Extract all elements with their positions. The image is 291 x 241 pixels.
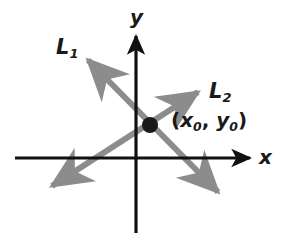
coordinate-x-subscript: 0	[193, 119, 202, 134]
line-L2	[52, 92, 198, 186]
open-paren: (	[171, 108, 180, 132]
y-axis-label: y	[130, 7, 143, 27]
x-axis-label: x	[259, 147, 272, 167]
line-label-L2-subscript: 2	[222, 90, 231, 105]
line-label-L1-letter: L	[56, 35, 69, 59]
figure-canvas	[0, 0, 291, 241]
intersection-coordinate-label: (x0, y0)	[171, 110, 247, 130]
intersection-point	[142, 117, 158, 133]
close-paren: )	[238, 108, 247, 132]
line-label-L2: L2	[209, 81, 231, 102]
coordinate-y: y	[216, 108, 229, 132]
geometry-figure: L1 L2 y x (x0, y0)	[0, 0, 291, 241]
coordinate-y-subscript: 0	[229, 119, 238, 134]
coordinate-x: x	[180, 108, 193, 132]
coordinate-comma: ,	[202, 108, 210, 132]
line-label-L2-letter: L	[209, 79, 222, 103]
line-label-L1: L1	[56, 37, 78, 58]
line-label-L1-subscript: 1	[69, 46, 78, 61]
